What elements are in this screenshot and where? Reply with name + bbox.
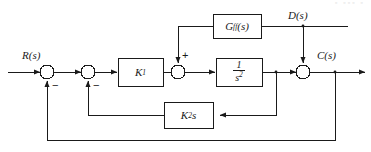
sign-feedforward: + [182,50,188,61]
signal-label-input: R(s) [22,50,40,61]
block-diagram: ▫ ▫▫▫ ▫ [0,0,371,152]
sign-inner-loop: − [93,80,99,91]
rate-feedback-block-label: K2s [164,102,213,128]
k1-label-sub: 1 [142,68,146,77]
gain-k1-block-label: K1 [118,58,163,86]
feedforward-summing-junction [171,65,185,79]
feedforward-block-label: Gff(s) [213,14,261,38]
plant-fraction: 1 s2 [233,60,245,84]
plant-block-label: 1 s2 [216,58,262,86]
diagram-wires [0,0,371,152]
k2s-label-tail: s [192,109,196,121]
disturbance-summing-junction [296,65,310,79]
outer-loop-summing-junction [40,65,54,79]
k1-label-main: K [135,66,142,78]
plant-numerator: 1 [235,60,244,70]
plant-denominator: s2 [233,70,245,83]
feedforward-label-main: G [225,20,233,32]
feedforward-label-tail: (s) [237,20,249,32]
signal-label-disturbance: D(s) [288,10,308,21]
sign-outer-loop: − [52,80,58,91]
signal-label-output: C(s) [317,50,336,61]
k2s-label-main: K [181,109,188,121]
inner-loop-summing-junction [81,65,95,79]
plant-denominator-exponent: 2 [239,70,243,79]
